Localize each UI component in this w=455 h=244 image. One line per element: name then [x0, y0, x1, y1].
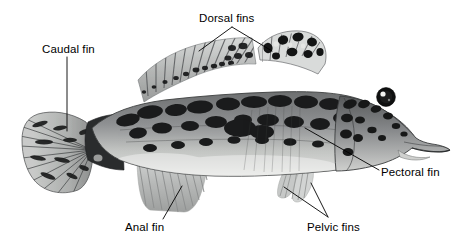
first-dorsal-fin-illustration	[136, 36, 258, 102]
label-caudal-fin: Caudal fin	[42, 43, 95, 55]
label-anal-fin: Anal fin	[125, 221, 164, 233]
second-dorsal-fin-illustration	[258, 31, 326, 74]
fish-head-illustration	[335, 88, 450, 171]
leader-pelvic-right	[311, 183, 328, 217]
label-pectoral-fin: Pectoral fin	[381, 166, 440, 178]
figure-container: Caudal fin Dorsal fins Pectoral fin Anal…	[0, 0, 455, 244]
fish-diagram	[0, 0, 455, 244]
label-pelvic-fins: Pelvic fins	[307, 221, 360, 233]
label-dorsal-fins: Dorsal fins	[199, 12, 254, 24]
